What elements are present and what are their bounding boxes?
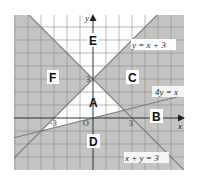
equation-label-y-x-plus-3: y = x + 3 xyxy=(131,40,166,50)
region-label-e: E xyxy=(89,34,97,48)
origin-label: O xyxy=(83,119,89,128)
region-label-f: F xyxy=(49,71,56,85)
equation-label-4y-x: 4y = x xyxy=(155,87,178,97)
tick-y-3: 3 xyxy=(86,75,90,84)
graph: y x O 3 3 -3 y = x + 3 4y = x x + y = 3 … xyxy=(0,0,199,182)
y-axis-label: y xyxy=(84,13,89,23)
region-label-b: B xyxy=(152,110,161,124)
tick-x-neg-3: -3 xyxy=(50,119,57,128)
tick-x-3: 3 xyxy=(129,119,133,128)
x-axis-label: x xyxy=(177,121,182,131)
region-label-a: A xyxy=(89,96,98,110)
equation-label-x-plus-y-3: x + y = 3 xyxy=(124,153,159,163)
region-label-d: D xyxy=(89,135,98,149)
region-label-c: C xyxy=(128,71,137,85)
